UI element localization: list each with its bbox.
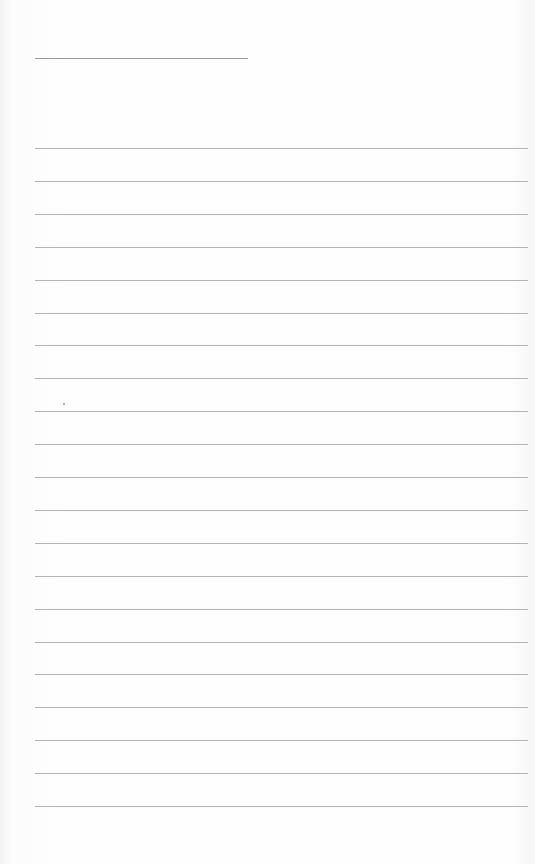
header-blank-line <box>35 58 248 59</box>
paper-speck <box>63 403 65 405</box>
ruled-line <box>35 609 528 610</box>
ruled-line <box>35 214 528 215</box>
lined-paper <box>0 0 535 864</box>
ruled-line <box>35 543 528 544</box>
ruled-line <box>35 576 528 577</box>
ruled-line <box>35 378 528 379</box>
ruled-line <box>35 674 528 675</box>
ruled-line <box>35 313 528 314</box>
ruled-line <box>35 247 528 248</box>
ruled-line <box>35 181 528 182</box>
ruled-line <box>35 740 528 741</box>
ruled-line <box>35 444 528 445</box>
ruled-line <box>35 345 528 346</box>
ruled-line <box>35 148 528 149</box>
ruled-line <box>35 707 528 708</box>
ruled-line <box>35 806 528 807</box>
ruled-line <box>35 477 528 478</box>
ruled-line <box>35 280 528 281</box>
ruled-line <box>35 411 528 412</box>
ruled-line <box>35 642 528 643</box>
ruled-line <box>35 510 528 511</box>
ruled-line <box>35 773 528 774</box>
